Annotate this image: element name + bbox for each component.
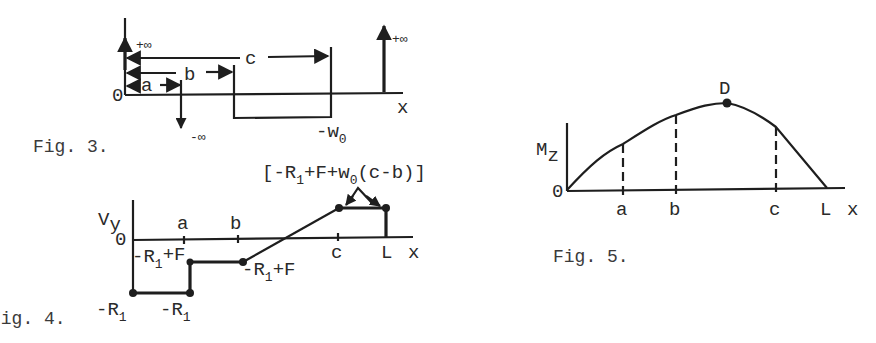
fig4-caption: Fig. 4.	[0, 309, 66, 329]
fig4-callout-lines	[348, 188, 372, 203]
fig3-minus-inf-label: -∞	[190, 130, 206, 145]
fig3-caption: Fig. 3.	[33, 137, 109, 157]
fig4-x-label: x	[408, 242, 419, 264]
fig4-origin-label: 0	[115, 229, 126, 251]
fig4-callout-arrow-left	[346, 196, 353, 205]
fig3-x-axis	[125, 93, 403, 95]
fig5-tick-a-label: a	[616, 199, 627, 221]
fig5-tick-c-label: c	[769, 199, 780, 221]
fig4-label-r1-plus-f-a: -R1+F	[132, 244, 185, 272]
fig3-dim-c-right	[268, 56, 328, 57]
fig4-tick-c-label: c	[331, 242, 342, 264]
fig4-label-neg-r1-left: -R1	[96, 299, 127, 325]
fig4-tick-L-label: L	[381, 242, 392, 264]
fig3-plus-inf-right-label: +∞	[392, 32, 408, 47]
figure-4-shear-diagram: [-R1+F+w0(c-b)] Vy 0 a b c L x -R1+F -R1…	[0, 162, 426, 329]
fig3-x-label: x	[397, 97, 408, 119]
fig4-tick-a-label: a	[177, 213, 188, 235]
fig5-y-label: Mz	[536, 139, 559, 167]
fig4-callout-arrow-right	[366, 196, 380, 206]
fig4-shear-ramp	[243, 208, 339, 262]
fig4-bracket-label: [-R1+F+w0(c-b)]	[262, 162, 426, 188]
fig4-label-r1-plus-f-b: -R1+F	[242, 259, 295, 285]
fig3-dim-a-label: a	[141, 75, 152, 97]
fig4-point-origin-bottom	[129, 289, 137, 297]
fig5-origin-label: 0	[552, 181, 563, 203]
fig3-dim-b-label: b	[184, 64, 195, 86]
fig5-tick-L-label: L	[820, 199, 831, 221]
fig4-tick-b-label: b	[230, 213, 241, 235]
fig5-moment-curve	[567, 103, 827, 190]
fig4-point-L	[382, 204, 390, 212]
fig4-x-axis	[133, 237, 413, 240]
fig5-caption: Fig. 5.	[553, 247, 629, 267]
figure-5-moment-diagram: D Mz 0 a b c L x Fig. 5.	[536, 78, 858, 267]
fig3-w0-label: -w0	[316, 121, 347, 147]
fig5-tick-b-label: b	[669, 199, 680, 221]
fig4-point-c	[335, 204, 343, 212]
fig4-label-neg-r1-at-a: -R1	[160, 299, 191, 325]
fig3-plus-inf-left-label: +∞	[136, 38, 152, 53]
fig5-x-axis	[567, 188, 845, 191]
fig3-origin-label: 0	[112, 85, 123, 107]
figure-3-load-diagram: +∞ c b a -∞ -w0 +∞ 0 x Fig. 3.	[33, 18, 408, 157]
fig4-point-a-top	[187, 259, 194, 266]
fig5-peak-label: D	[719, 78, 730, 100]
diagram-canvas: +∞ c b a -∞ -w0 +∞ 0 x Fig. 3.	[0, 0, 876, 343]
fig5-x-label: x	[847, 199, 858, 221]
fig4-shear-top	[339, 208, 386, 237]
fig3-dim-c-label: c	[245, 48, 256, 70]
fig4-point-a-bottom	[186, 289, 194, 297]
